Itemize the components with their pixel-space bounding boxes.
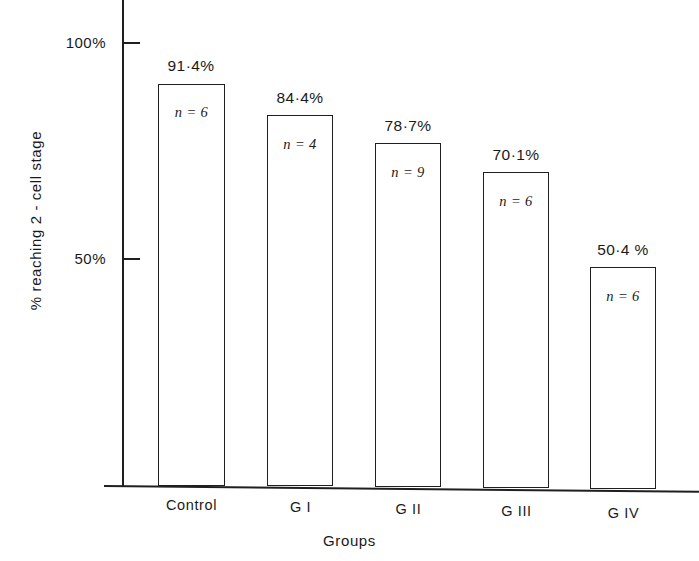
x-label-control: Control <box>143 497 240 513</box>
bar-value-label: 70·1% <box>468 146 564 164</box>
bar-control[interactable] <box>158 84 225 486</box>
y-axis-title: % reaching 2 - cell stage <box>27 91 44 351</box>
x-label-g4: G IV <box>575 505 672 521</box>
bar-g3[interactable] <box>483 172 549 488</box>
bar-n-label: n = 9 <box>375 164 441 181</box>
x-label-g1: G I <box>252 499 349 515</box>
y-tick-100 <box>124 42 140 44</box>
bar-n-label: n = 4 <box>267 136 333 153</box>
y-tick-50 <box>124 258 140 260</box>
x-axis-title: Groups <box>0 532 699 549</box>
bar-value-label: 91·4% <box>143 57 239 75</box>
bar-value-label: 50·4 % <box>575 241 671 259</box>
bar-n-label: n = 6 <box>158 104 225 121</box>
bar-g1[interactable] <box>267 115 333 486</box>
bar-chart-figure: 100% 50% % reaching 2 - cell stage 91·4%… <box>0 0 699 561</box>
y-tick-label-100: 100% <box>28 34 106 51</box>
y-axis-line <box>122 0 124 487</box>
x-label-g3: G III <box>468 503 565 519</box>
bar-n-label: n = 6 <box>483 193 549 210</box>
bar-n-label: n = 6 <box>590 288 656 305</box>
bar-value-label: 84·4% <box>252 89 348 107</box>
bar-value-label: 78·7% <box>360 117 456 135</box>
bar-g2[interactable] <box>375 143 441 487</box>
x-label-g2: G II <box>360 501 457 517</box>
